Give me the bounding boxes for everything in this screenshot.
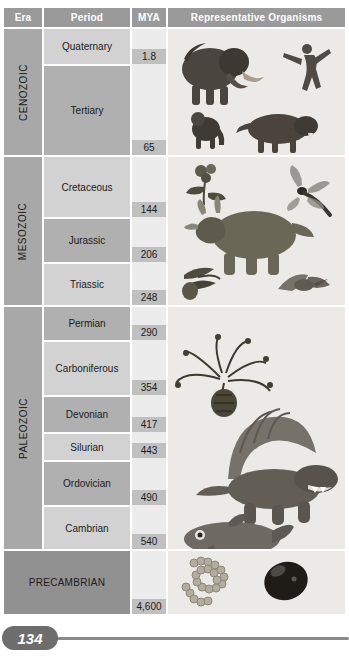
mya-value-triassic: 248	[132, 290, 166, 305]
mya-value-precambrian: 4,600	[132, 599, 166, 614]
period-cell-permian: Permian	[44, 307, 130, 340]
mya-band-cenozoic	[132, 29, 166, 155]
period-cell-devonian: Devonian	[44, 397, 130, 432]
column-header-period: Period	[44, 8, 130, 27]
organism-panel-cenozoic	[168, 29, 345, 155]
mya-value-quaternary: 1.8	[132, 49, 166, 64]
era-label-paleozoic: PALEOZOIC	[18, 398, 29, 459]
period-label-quaternary: Quaternary	[62, 41, 112, 52]
mya-value-jurassic: 206	[132, 247, 166, 262]
mya-value-permian: 290	[132, 325, 166, 340]
precambrian-illustrations	[168, 551, 345, 614]
mya-value-cambrian: 540	[132, 534, 166, 549]
organism-panel-paleozoic	[168, 307, 345, 549]
period-label-devonian: Devonian	[66, 409, 108, 420]
time-scale-table: Era Period MYA Representative Organisms …	[4, 8, 345, 616]
period-label-carboniferous: Carboniferous	[56, 363, 119, 374]
period-cell-ordovician: Ordovician	[44, 462, 130, 505]
period-cell-tertiary: Tertiary	[44, 66, 130, 155]
period-cell-jurassic: Jurassic	[44, 219, 130, 262]
paleozoic-illustrations	[168, 307, 345, 549]
era-cell-paleozoic: PALEOZOIC	[4, 307, 42, 549]
mya-value-silurian: 443	[132, 443, 166, 458]
table-header-row: Era Period MYA Representative Organisms	[4, 8, 345, 27]
era-cell-cenozoic: CENOZOIC	[4, 29, 42, 155]
cycad-trunk-icon	[211, 389, 237, 417]
era-cell-mesozoic: MESOZOIC	[4, 157, 42, 305]
period-label-cretaceous: Cretaceous	[61, 182, 112, 193]
mya-value-cretaceous: 144	[132, 202, 166, 217]
footer-rule	[52, 637, 349, 640]
page-number-badge: 134	[2, 626, 58, 650]
period-label-triassic: Triassic	[70, 279, 104, 290]
period-label-cambrian: Cambrian	[65, 523, 108, 534]
column-header-era: Era	[4, 8, 42, 27]
period-label-silurian: Silurian	[70, 442, 103, 453]
period-cell-silurian: Silurian	[44, 434, 130, 460]
mya-value-carboniferous: 354	[132, 380, 166, 395]
organism-panel-mesozoic	[168, 157, 345, 305]
column-header-mya: MYA	[132, 8, 166, 27]
geologic-time-scale-page: Era Period MYA Representative Organisms …	[0, 0, 349, 656]
period-label-ordovician: Ordovician	[63, 478, 111, 489]
era-label-precambrian: PRECAMBRIAN	[29, 577, 106, 588]
period-label-jurassic: Jurassic	[69, 235, 106, 246]
table-body: CENOZOIC Quaternary Tertiary 1.8 65	[4, 29, 345, 616]
period-cell-triassic: Triassic	[44, 264, 130, 305]
period-cell-cretaceous: Cretaceous	[44, 157, 130, 217]
period-cell-quaternary: Quaternary	[44, 29, 130, 64]
era-label-cenozoic: CENOZOIC	[18, 64, 29, 121]
mya-value-tertiary: 65	[132, 140, 166, 155]
page-footer: 134	[0, 622, 349, 656]
mesozoic-illustrations	[168, 157, 345, 305]
cenozoic-illustrations	[168, 29, 345, 155]
period-label-permian: Permian	[68, 318, 105, 329]
period-cell-cambrian: Cambrian	[44, 507, 130, 549]
mya-value-devonian: 417	[132, 417, 166, 432]
mya-band-mesozoic	[132, 157, 166, 305]
era-label-mesozoic: MESOZOIC	[18, 202, 29, 259]
organism-panel-precambrian	[168, 551, 345, 614]
mya-value-ordovician: 490	[132, 490, 166, 505]
period-label-tertiary: Tertiary	[71, 105, 104, 116]
column-header-organisms: Representative Organisms	[168, 8, 345, 27]
era-cell-precambrian: PRECAMBRIAN	[4, 551, 130, 614]
period-cell-carboniferous: Carboniferous	[44, 342, 130, 395]
